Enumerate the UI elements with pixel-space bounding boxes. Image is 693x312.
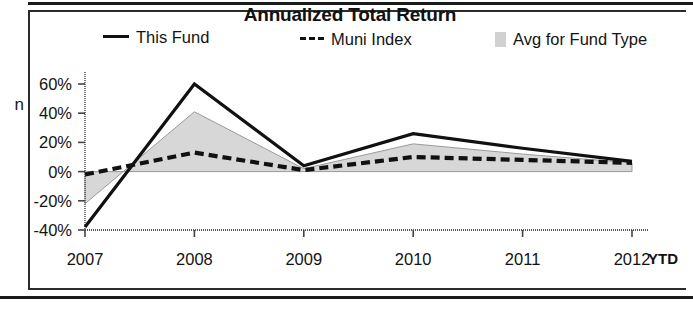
area-swatch-icon <box>495 32 506 47</box>
chart-title: Annualized Total Return <box>190 4 510 26</box>
legend-label-this-fund: This Fund <box>136 28 209 47</box>
legend-item-avg-fund-type: Avg for Fund Type <box>495 30 647 49</box>
legend-item-muni-index: Muni Index <box>300 30 412 49</box>
x-tick-label: 2008 <box>176 250 213 269</box>
x-axis-tick-labels: 200720082009201020112012 <box>0 250 693 272</box>
y-tick-label: -40% <box>18 221 72 240</box>
legend-label-avg-fund-type: Avg for Fund Type <box>513 30 647 49</box>
x-tick-label: 2007 <box>67 250 104 269</box>
y-tick-label: 40% <box>18 104 72 123</box>
x-tick-label: 2010 <box>395 250 432 269</box>
y-tick-label: 0% <box>18 162 72 181</box>
legend-label-muni-index: Muni Index <box>331 30 412 49</box>
dashed-line-icon <box>300 37 324 40</box>
x-tick-label: 2012 <box>614 250 651 269</box>
legend-item-this-fund: This Fund <box>103 28 209 47</box>
x-axis-ytd-label: YTD <box>648 250 678 267</box>
page-rule-bottom <box>0 296 693 299</box>
y-tick-label: -20% <box>18 191 72 210</box>
x-tick-label: 2011 <box>505 250 540 269</box>
y-tick-label: 20% <box>18 133 72 152</box>
solid-line-icon <box>103 35 129 38</box>
chart-figure-box <box>28 10 686 290</box>
chart-legend: This Fund Muni Index Avg for Fund Type <box>0 28 693 52</box>
y-tick-label: 60% <box>18 75 72 94</box>
x-tick-label: 2009 <box>285 250 322 269</box>
